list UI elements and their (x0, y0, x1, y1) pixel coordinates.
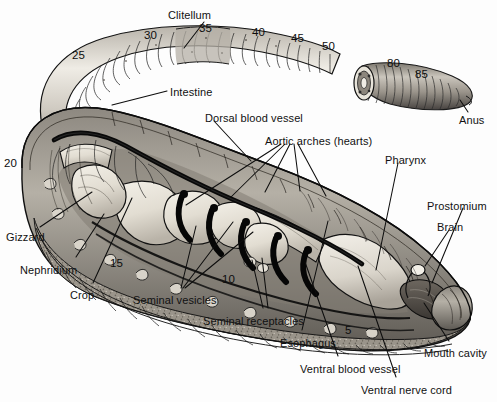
segment-number-40: 40 (252, 27, 265, 39)
label-seminal-vesicles: Seminal vesicles (133, 295, 217, 306)
segment-number-80: 80 (387, 58, 400, 70)
label-ventral-nerve-cord: Ventral nerve cord (361, 385, 452, 396)
label-brain: Brain (437, 222, 463, 233)
label-crop: Crop (70, 290, 94, 301)
label-aortic-arches: Aortic arches (hearts) (265, 136, 372, 147)
label-clitellum: Clitellum (168, 10, 211, 21)
segment-number-10: 10 (222, 274, 235, 286)
segment-number-45: 45 (291, 33, 304, 45)
segment-number-50: 50 (322, 41, 335, 53)
segment-number-25: 25 (72, 50, 85, 62)
label-ventral-blood-vessel: Ventral blood vessel (300, 364, 400, 375)
label-pharynx: Pharynx (385, 155, 426, 166)
segment-number-35: 35 (199, 23, 212, 35)
label-prostomium: Prostomium (427, 201, 487, 212)
brain-ganglion (411, 265, 425, 276)
label-dorsal-blood-vessel: Dorsal blood vessel (205, 113, 303, 124)
label-gizzard: Gizzard (6, 232, 45, 243)
label-intestine: Intestine (170, 87, 212, 98)
segment-number-5: 5 (345, 325, 351, 337)
segment-number-15: 15 (110, 258, 123, 270)
label-mouth-cavity: Mouth cavity (424, 348, 487, 359)
posterior-segment-group (354, 63, 472, 110)
label-anus: Anus (459, 115, 484, 126)
segment-number-20: 20 (4, 158, 17, 170)
label-seminal-receptacles: Seminal receptacles (203, 316, 304, 327)
segment-number-85: 85 (415, 69, 428, 81)
segment-number-30: 30 (144, 30, 157, 42)
leader-intestine (112, 91, 167, 105)
label-nephridium: Nephridium (20, 265, 77, 276)
earthworm-anatomy-diagram: ClitellumIntestineDorsal blood vesselAor… (0, 0, 497, 402)
label-esophagus: Esophagus (280, 338, 336, 349)
